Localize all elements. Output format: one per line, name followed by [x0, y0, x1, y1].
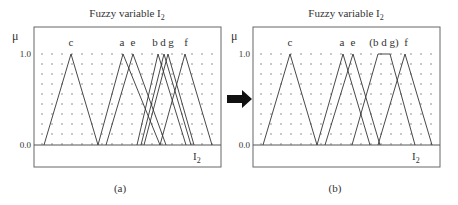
y-tick-0: 0.0 — [239, 140, 251, 150]
membership-function-e — [325, 54, 380, 145]
membership-function-f — [378, 54, 432, 145]
set-label: e — [131, 36, 136, 48]
set-label: b — [152, 36, 158, 48]
plot-frame — [253, 27, 440, 167]
set-label: d — [160, 36, 166, 48]
membership-function-d — [141, 54, 191, 145]
x-axis-label: I2 — [193, 150, 201, 165]
panel-caption: (a) — [114, 182, 127, 195]
y-tick-1: 1.0 — [20, 49, 32, 59]
set-label: c — [288, 36, 293, 48]
x-axis-label: I2 — [412, 150, 420, 165]
panel-title: Fuzzy variable I2 — [308, 7, 383, 22]
set-label: f — [404, 36, 408, 48]
y-axis-label: μ — [12, 29, 18, 43]
set-label: e — [351, 36, 356, 48]
panel-caption: (b) — [329, 182, 342, 195]
panel-title: Fuzzy variable I2 — [89, 7, 164, 22]
membership-function-a — [317, 54, 370, 145]
fuzzy-sets-figure: Fuzzy variable I2μ1.00.0caebdgfI2(a)Fuzz… — [0, 0, 458, 205]
plot-frame — [34, 27, 221, 167]
membership-function-bdg — [352, 54, 415, 145]
right-arrow-icon — [227, 90, 252, 108]
set-label: (b d g) — [369, 36, 399, 49]
membership-function-e — [106, 54, 166, 145]
panel-a: Fuzzy variable I2μ1.00.0caebdgfI2(a) — [12, 7, 221, 195]
set-label: f — [184, 36, 188, 48]
panel-b: Fuzzy variable I2μ1.00.0cae(b d g)fI2(b) — [231, 7, 440, 195]
y-axis-label: μ — [231, 29, 237, 43]
membership-function-c — [263, 54, 317, 145]
set-label: c — [69, 36, 74, 48]
set-label: a — [120, 36, 125, 48]
set-label: a — [340, 36, 345, 48]
y-tick-1: 1.0 — [239, 49, 251, 59]
y-tick-0: 0.0 — [20, 140, 32, 150]
set-label: g — [168, 36, 174, 48]
membership-function-c — [44, 54, 98, 145]
